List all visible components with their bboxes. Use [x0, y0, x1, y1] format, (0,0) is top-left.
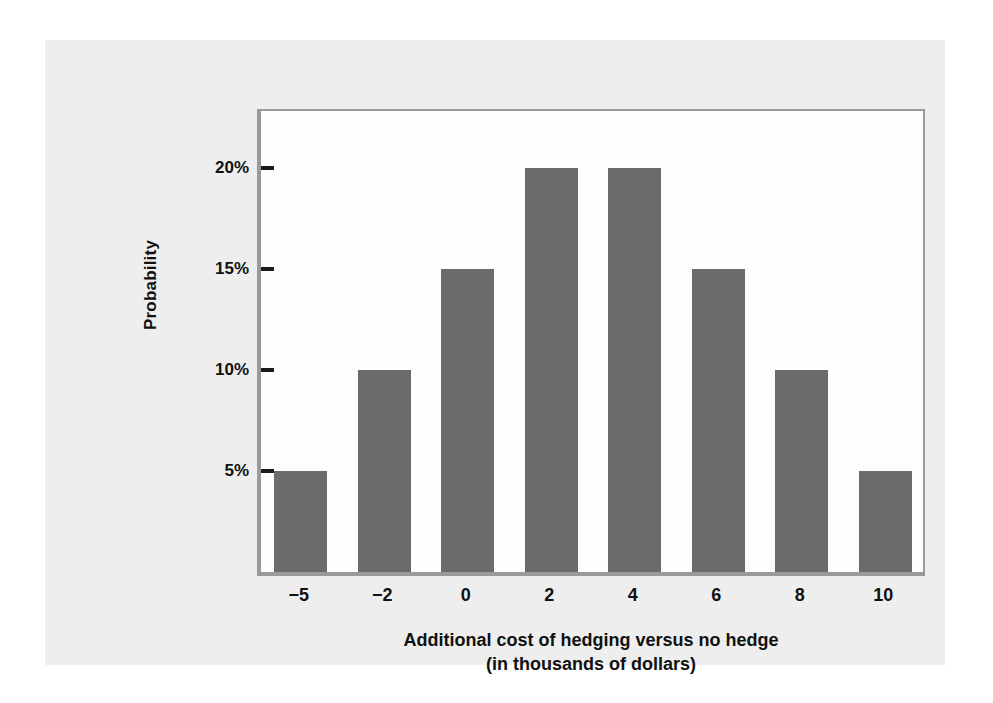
y-axis-tick-20pct: 20%	[261, 166, 274, 170]
y-axis-tick-5pct: 5%	[261, 469, 274, 473]
bar	[441, 269, 494, 572]
figure-panel: Probability 5%10%15%20% −5−20246810 Addi…	[45, 40, 945, 665]
bar	[525, 168, 578, 572]
y-axis-line	[259, 111, 261, 574]
plot-frame: 5%10%15%20%	[257, 109, 925, 576]
bar	[859, 471, 912, 572]
y-axis-tick-label: 5%	[224, 461, 249, 481]
bar	[274, 471, 327, 572]
plot-area: 5%10%15%20%	[259, 111, 923, 574]
x-axis-tick-label: −5	[288, 585, 309, 606]
x-axis-tick-label: 0	[461, 585, 471, 606]
y-axis-tick-label: 20%	[215, 158, 249, 178]
bar	[608, 168, 661, 572]
bar	[775, 370, 828, 572]
x-axis-tick-label: 2	[544, 585, 554, 606]
x-axis-tick-label: 8	[795, 585, 805, 606]
x-axis-line	[259, 572, 923, 574]
y-axis-tick-10pct: 10%	[261, 368, 274, 372]
y-axis-tick-label: 15%	[215, 259, 249, 279]
bar	[358, 370, 411, 572]
y-axis-title: Probability	[141, 240, 161, 330]
x-axis-title-line-2: (in thousands of dollars)	[257, 652, 925, 676]
figure-root: Probability 5%10%15%20% −5−20246810 Addi…	[0, 0, 993, 703]
x-axis-title: Additional cost of hedging versus no hed…	[257, 628, 925, 677]
x-axis-title-line-1: Additional cost of hedging versus no hed…	[403, 630, 778, 650]
x-axis-tick-label: 6	[711, 585, 721, 606]
y-axis-tick-label: 10%	[215, 360, 249, 380]
bar	[692, 269, 745, 572]
x-axis-tick-label: −2	[372, 585, 393, 606]
x-axis-tick-label: 10	[873, 585, 893, 606]
y-axis-tick-15pct: 15%	[261, 267, 274, 271]
x-axis-tick-label: 4	[628, 585, 638, 606]
